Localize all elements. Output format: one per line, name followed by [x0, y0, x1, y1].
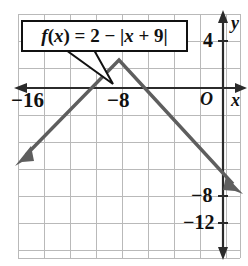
absolute-value-curve — [15, 60, 243, 194]
x-tick-label-neg16: −16 — [11, 90, 44, 111]
callout-pointer — [66, 48, 113, 84]
y-tick-label-4: 4 — [203, 30, 213, 50]
origin-label: O — [200, 90, 213, 108]
equation-callout-box: f(x) = 2 − |x + 9| — [21, 20, 188, 52]
equation-text: f(x) = 2 − |x + 9| — [41, 25, 167, 47]
x-tick-label-neg8: −8 — [107, 90, 129, 111]
y-tick-label-neg8: −8 — [191, 185, 212, 205]
y-axis-name-label: y — [231, 14, 239, 32]
x-axis-name-label: x — [231, 91, 240, 109]
y-tick-label-neg12: −12 — [183, 212, 214, 232]
graph-figure: f(x) = 2 − |x + 9| −16 −8 O x y 4 −8 −12 — [0, 0, 248, 266]
